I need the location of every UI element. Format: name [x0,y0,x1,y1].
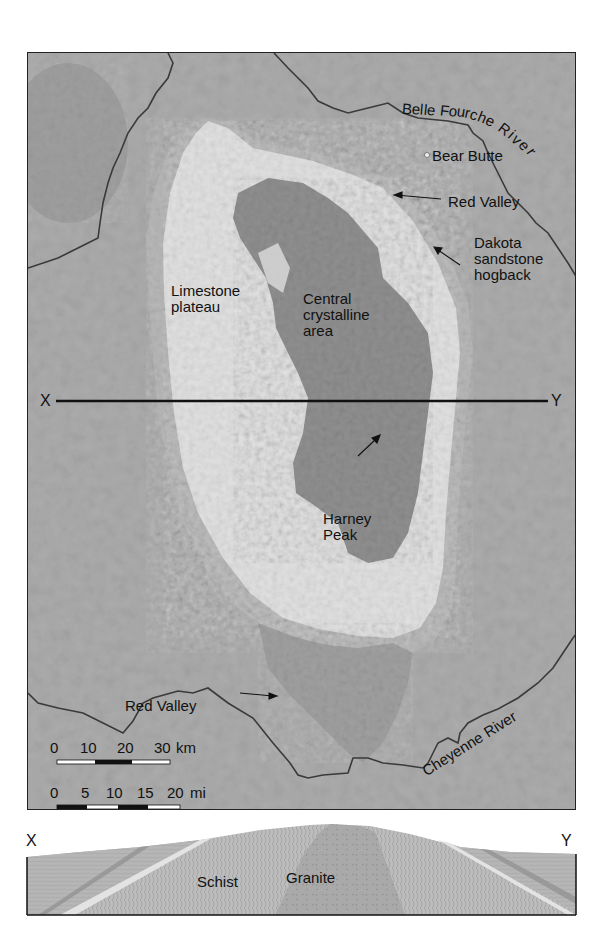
label-bear-butte: Bear Butte [432,148,503,164]
map-graphic [28,53,576,810]
bear-butte-marker [425,153,430,158]
shaded-relief-map: Belle Fourche River Bear Butte Red Valle… [27,52,576,810]
label-granite: Granite [286,870,335,886]
label-section-x: X [40,393,51,409]
label-section-y: Y [551,393,562,409]
label-red-valley-northeast: Red Valley [448,194,519,210]
cross-section-x-y: X Y [0,812,602,930]
label-dakota-hogback: Dakota sandstone hogback [474,235,543,283]
scale-bar-mi [57,805,180,809]
scale-bar-km [57,760,170,764]
label-harney-peak: Harney Peak [323,511,371,543]
label-belle-fourche-river: Belle Fourche River [402,101,534,117]
label-schist: Schist [197,874,238,890]
label-limestone-plateau: Limestone plateau [171,283,240,315]
label-central-crystalline-area: Central crystalline area [303,291,370,339]
label-red-valley-southwest: Red Valley [125,698,196,714]
